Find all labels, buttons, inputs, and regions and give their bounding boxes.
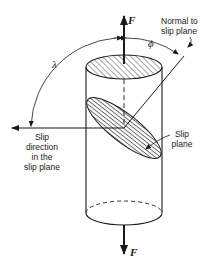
slip-direction-label-line4: slip plane — [24, 162, 60, 172]
normal-label-line2: slip plane — [161, 26, 197, 36]
slip-direction-label-line1: Slip — [35, 132, 49, 142]
normal-label-leader — [188, 37, 191, 47]
slip-plane-label-line2: plane — [172, 139, 193, 149]
slip-direction-label-line3: in the — [32, 152, 53, 162]
lambda-label: λ — [51, 58, 57, 70]
normal-label-line1: Normal to — [161, 16, 198, 26]
force-label-bottom: F — [129, 246, 138, 258]
cylinder-bottom-back — [86, 201, 162, 213]
cylinder-bottom-front — [86, 213, 162, 225]
slip-direction-label-line2: direction — [26, 142, 58, 152]
phi-label: ϕ — [148, 37, 154, 49]
slip-geometry-diagram: F F Normal to slip plane ϕ λ Slip direct… — [0, 0, 211, 265]
slip-plane-label-line1: Slip — [175, 129, 189, 139]
force-label-top: F — [127, 14, 136, 26]
